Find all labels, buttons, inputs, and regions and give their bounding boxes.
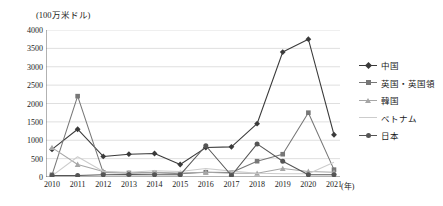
- data-point-marker: [75, 162, 81, 167]
- x-tick-label: 2019: [275, 180, 291, 189]
- legend-marker-icon: [359, 95, 377, 105]
- y-tick-label: 2500: [27, 81, 43, 90]
- x-tick-label: 2021: [326, 180, 342, 189]
- legend-marker-icon: [359, 78, 377, 88]
- data-point-marker: [331, 132, 337, 138]
- data-point-marker: [280, 49, 286, 55]
- series-2: [50, 94, 337, 177]
- x-tick-label: 2014: [147, 180, 163, 189]
- legend-item-3[interactable]: 韓国: [359, 95, 435, 105]
- legend-marker-icon: [359, 113, 377, 123]
- legend-item-2[interactable]: 英国・英国領: [359, 78, 435, 88]
- series-5: [50, 141, 337, 177]
- legend-label: 中国: [381, 59, 399, 71]
- x-tick-label: 2016: [198, 180, 214, 189]
- legend-label: ベトナム: [381, 112, 417, 124]
- data-point-marker: [280, 152, 285, 157]
- y-tick-label: 500: [31, 154, 43, 163]
- x-tick-label: 2020: [300, 180, 316, 189]
- data-point-marker: [305, 36, 311, 42]
- data-point-marker: [255, 159, 260, 164]
- x-tick-label: 2017: [223, 180, 239, 189]
- y-tick-label: 4000: [27, 26, 43, 35]
- data-point-marker: [152, 151, 158, 157]
- x-tick-label: 2018: [249, 180, 265, 189]
- x-tick-label: 2012: [95, 180, 111, 189]
- legend-marker-icon: [359, 130, 377, 140]
- series-line: [52, 144, 334, 176]
- y-tick-label: 2000: [27, 99, 43, 108]
- y-tick-label: 0: [39, 173, 43, 182]
- y-tick-label: 3000: [27, 62, 43, 71]
- x-tick-label: 2013: [121, 180, 137, 189]
- series-1: [49, 36, 337, 167]
- y-tick-label: 1500: [27, 117, 43, 126]
- data-point-marker: [255, 141, 260, 146]
- data-point-marker: [280, 159, 285, 164]
- series-line: [52, 96, 334, 175]
- y-axis-tick-labels: 05001000150020002500300035004000: [0, 30, 43, 177]
- legend-label: 日本: [381, 129, 399, 141]
- data-point-marker: [177, 162, 183, 168]
- legend-item-5[interactable]: 日本: [359, 130, 435, 140]
- legend-label: 韓国: [381, 94, 399, 106]
- line-chart: (100万米ドル) 050010001500200025003000350040…: [0, 0, 443, 206]
- x-tick-label: 2010: [44, 180, 60, 189]
- plot-svg: [46, 30, 340, 177]
- legend-item-4[interactable]: ベトナム: [359, 113, 435, 123]
- plot-area: [46, 30, 340, 177]
- data-point-marker: [306, 110, 311, 115]
- y-tick-label: 1000: [27, 136, 43, 145]
- legend-label: 英国・英国領: [381, 77, 435, 89]
- legend-item-1[interactable]: 中国: [359, 60, 435, 70]
- legend-marker-icon: [359, 60, 377, 70]
- x-axis-unit-label: (年): [341, 180, 354, 191]
- data-point-marker: [203, 143, 208, 148]
- x-axis-tick-labels: 2010201120122013201420152016201720182019…: [46, 180, 340, 196]
- y-tick-label: 3500: [27, 44, 43, 53]
- data-series-layer: [49, 36, 337, 177]
- data-point-marker: [126, 151, 132, 157]
- y-axis-unit-label: (100万米ドル): [36, 8, 90, 20]
- data-point-marker: [75, 173, 80, 177]
- x-tick-label: 2011: [70, 180, 86, 189]
- gridlines: [46, 30, 340, 177]
- chart-legend: 中国英国・英国領韓国ベトナム日本: [359, 60, 435, 140]
- data-point-marker: [126, 172, 131, 177]
- x-tick-label: 2015: [172, 180, 188, 189]
- data-point-marker: [75, 94, 80, 99]
